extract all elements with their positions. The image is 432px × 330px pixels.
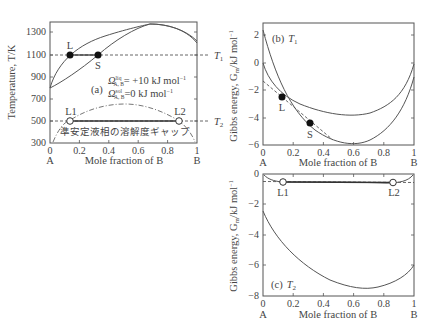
panel-a-label-s: S [95, 60, 101, 71]
panel-b-label-l: L [279, 102, 285, 113]
panel-a-xtick-0.2: 0.2 [73, 145, 86, 156]
panel-a-label-l1: L1 [65, 106, 77, 117]
panel-c-ytick-m6: −6 [248, 259, 259, 270]
panel-b-ytick-m2: −2 [248, 84, 259, 95]
panel-b-ticks [263, 35, 414, 145]
panel-c-xtick-0.8: 0.8 [378, 298, 391, 309]
panel-c-ytick-m2: −2 [248, 198, 259, 209]
panel-a-x-end-a: A [46, 155, 54, 166]
panel-b-ytick-0: 0 [254, 57, 259, 68]
panel-a-label-l2: L2 [174, 106, 186, 117]
panel-c-x-end-a: A [259, 309, 267, 320]
panel-c-label: (c)T2 [271, 279, 297, 292]
panel-b-gibbs-t1: 2 0 −2 −4 −6 0 0.2 0.4 0.6 0.8 1 A Mole … [228, 23, 418, 168]
panel-a-ytick-700: 700 [31, 93, 46, 104]
panel-a-phase-diagram: 1300 1100 900 700 500 300 0 0.2 0.4 0.6 … [6, 22, 224, 166]
panel-b-ytick-m6: −6 [248, 139, 259, 150]
panel-b-ytick-m4: −4 [248, 112, 259, 123]
panel-a-x-end-b: B [193, 155, 200, 166]
panel-c-gibbs-t2: 0 −2 −4 −6 −8 0 0.2 0.4 0.6 0.8 1 A Mole… [228, 168, 418, 320]
panel-c-point-l2 [390, 179, 397, 186]
panel-c-ylabel: Gibbs energy, Gm/kJ mol−1 [228, 180, 241, 291]
panel-a-point-l [67, 52, 74, 59]
panel-b-solid-curve [263, 30, 414, 144]
panel-b-frame [263, 23, 414, 145]
panel-c-xtick-0.2: 0.2 [287, 298, 300, 309]
panel-c-solid-curve [263, 211, 414, 288]
panel-b-xlabel: Mole fraction of B [299, 157, 377, 168]
panel-b-point-l [279, 94, 286, 101]
panel-a-point-l1 [67, 118, 74, 125]
panel-a-ytick-1100: 1100 [26, 49, 46, 60]
panel-c-x-end-b: B [410, 309, 417, 320]
panel-a-ytick-500: 500 [31, 115, 46, 126]
panel-c-ytick-0: 0 [254, 168, 259, 179]
panel-a-omega-liq: ΩliqA, B= +10 kJ mol−1 [108, 75, 186, 87]
panel-a-point-s [95, 52, 102, 59]
panel-a-xtick-0.8: 0.8 [161, 145, 174, 156]
panel-a-gap-caption: 準安定液相の溶解度ギャップ [60, 126, 190, 137]
panel-a-omega-sol: ΩsolA, B=0 kJ mol−1 [108, 88, 173, 100]
panel-b-xtick-0.8: 0.8 [378, 147, 391, 158]
panel-c-xtick-0.6: 0.6 [347, 298, 360, 309]
panel-a-point-l2 [176, 118, 183, 125]
panel-b-ytick-2: 2 [254, 29, 259, 40]
panel-b-label: (b)T1 [272, 33, 298, 46]
panel-a-ytick-900: 900 [31, 71, 46, 82]
panel-c-point-l1 [280, 179, 287, 186]
panel-a-ytick-300: 300 [31, 137, 46, 148]
panel-c-xtick-0: 0 [261, 298, 266, 309]
panel-b-x-end-a: A [259, 157, 267, 168]
panel-a-label: (a) [91, 84, 103, 96]
panel-b-x-end-b: B [410, 157, 417, 168]
panel-a-ytick-1300: 1300 [26, 26, 46, 37]
panel-c-tieline [282, 182, 393, 183]
panel-c-label-l2: L2 [388, 187, 400, 198]
panel-a-xlabel: Mole fraction of B [85, 155, 163, 166]
panel-a-t2-label: T2 [214, 116, 224, 129]
figure: 1300 1100 900 700 500 300 0 0.2 0.4 0.6 … [0, 0, 432, 330]
panel-b-common-tangent [263, 81, 333, 140]
panel-c-xtick-0.4: 0.4 [317, 298, 330, 309]
panel-a-t1-label: T1 [214, 50, 224, 63]
panel-b-ylabel: Gibbs energy, Gm/kJ mol−1 [228, 30, 241, 141]
panel-c-xlabel: Mole fraction of B [299, 309, 377, 320]
panel-a-label-l: L [67, 40, 73, 51]
panel-c-ytick-m4: −4 [248, 229, 259, 240]
panel-b-point-s [307, 120, 314, 127]
panel-b-liquid-curve [263, 63, 414, 115]
panel-b-xtick-0.2: 0.2 [287, 147, 300, 158]
panel-a-ylabel: Temperature, T/K [6, 44, 17, 119]
panel-c-label-l1: L1 [277, 187, 289, 198]
panel-c-ytick-m8: −8 [248, 290, 259, 301]
panel-b-label-s: S [307, 129, 313, 140]
panel-c-xtick-1: 1 [412, 298, 417, 309]
